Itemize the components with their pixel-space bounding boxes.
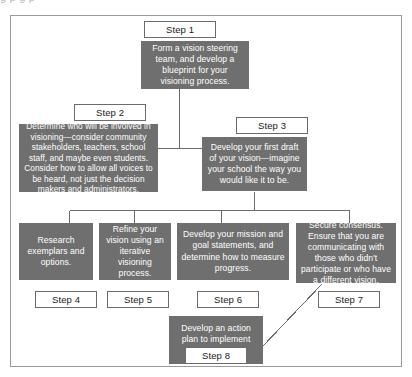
process-box-step2[interactable]: Determine who will be involved in vision… [19,124,158,192]
step-label-5: Step 5 [107,291,169,308]
step-label-7: Step 7 [318,291,380,308]
diagram-canvas: Step 1 Form a vision steering team, and … [11,16,401,366]
process-box-step5[interactable]: Refine your vision using an iterative vi… [99,223,171,280]
process-box-step5-text: Refine your vision using an iterative vi… [103,224,167,279]
step-label-2: Step 2 [74,104,146,121]
clipped-caption-above-frame: g p g p [0,0,412,5]
process-box-step7[interactable]: Secure consensus. Ensure that you are co… [296,223,396,283]
process-box-step6[interactable]: Develop your mission and goal statements… [177,223,289,280]
process-box-step3-text: Develop your first draft of your vision—… [206,142,303,186]
connector-step7-to-step8 [263,285,322,347]
process-box-step4-text: Research exemplars and options. [23,235,89,268]
step-label-1: Step 1 [144,21,216,38]
process-box-step1-text: Form a vision steering team, and develop… [145,43,245,87]
diagram-frame: Step 1 Form a vision steering team, and … [10,15,402,367]
process-box-step4[interactable]: Research exemplars and options. [19,223,93,280]
step-label-4: Step 4 [35,291,97,308]
process-box-step7-text: Secure consensus. Ensure that you are co… [300,220,392,287]
process-box-step1[interactable]: Form a vision steering team, and develop… [141,41,249,89]
step-label-3: Step 3 [236,117,308,134]
step-label-8: Step 8 [185,347,247,364]
step-label-6: Step 6 [197,291,259,308]
process-box-step6-text: Develop your mission and goal statements… [181,229,285,273]
process-box-step2-text: Determine who will be involved in vision… [23,121,154,195]
process-box-step3[interactable]: Develop your first draft of your vision—… [202,137,307,191]
